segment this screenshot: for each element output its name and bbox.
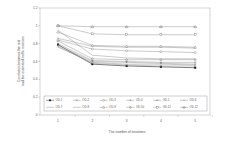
line-chart: 00.20.40.60.811.2 12345 OD-1OD-2OD-3OD-4… <box>0 0 225 142</box>
y-axis: 00.20.40.60.811.2 <box>33 6 40 117</box>
legend-label: OD-6 <box>190 98 197 102</box>
legend: OD-1OD-2OD-3OD-4OD-5OD-6OD-7OD-8OD-9OD-1… <box>44 96 207 111</box>
y-tick-label: 0.8 <box>33 42 38 46</box>
x-tick-label: 3 <box>126 119 128 123</box>
legend-label: OD-4 <box>136 98 143 102</box>
legend-label: OD-1 <box>56 98 63 102</box>
x-tick-label: 4 <box>160 119 162 123</box>
y-axis-title: Correlation between the real and the est… <box>17 36 25 86</box>
series-od-9 <box>57 31 197 48</box>
x-tick-label: 5 <box>194 119 196 123</box>
legend-box <box>44 96 207 111</box>
y-tick-label: 0 <box>36 113 38 117</box>
legend-label: OD-3 <box>109 98 116 102</box>
legend-label: OD-10 <box>136 105 145 109</box>
y-axis-title-line-2: and the estimated traffic matrices <box>21 36 25 86</box>
legend-label: OD-8 <box>82 105 89 109</box>
y-tick-label: 1.2 <box>33 6 38 10</box>
legend-label: OD-2 <box>82 98 89 102</box>
legend-label: OD-9 <box>109 105 116 109</box>
x-axis-title: The number of iterations <box>109 130 146 134</box>
legend-label: OD-11 <box>163 105 171 109</box>
legend-label: OD-5 <box>163 98 170 102</box>
series-layer <box>56 25 197 69</box>
x-tick-label: 1 <box>57 119 59 123</box>
y-tick-label: 0.4 <box>33 77 38 81</box>
y-tick-label: 0.6 <box>33 60 38 64</box>
y-tick-label: 0.2 <box>33 95 38 99</box>
x-axis: 12345 <box>57 115 212 123</box>
legend-label: OD-12 <box>190 105 199 109</box>
x-tick-label: 2 <box>91 119 93 123</box>
y-tick-label: 1 <box>36 24 38 28</box>
series-od-12 <box>56 25 197 28</box>
legend-label: OD-7 <box>56 105 63 109</box>
